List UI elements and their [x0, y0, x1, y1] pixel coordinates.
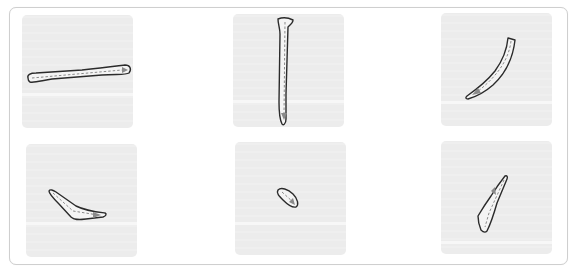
stroke-tile-3[interactable] [441, 13, 552, 126]
stroke-tile-1[interactable] [22, 15, 133, 128]
stroke-tile-6[interactable] [441, 141, 552, 254]
stroke-tile-4[interactable] [26, 144, 137, 257]
right-falling-short-stroke-icon [26, 144, 137, 257]
vertical-stroke-icon [233, 14, 344, 127]
stroke-tile-5[interactable] [235, 142, 346, 255]
left-falling-short-stroke-icon [441, 141, 552, 254]
stroke-tile-2[interactable] [233, 14, 344, 127]
left-falling-stroke-icon [441, 13, 552, 126]
horizontal-stroke-icon [22, 15, 133, 128]
dot-stroke-icon [235, 142, 346, 255]
